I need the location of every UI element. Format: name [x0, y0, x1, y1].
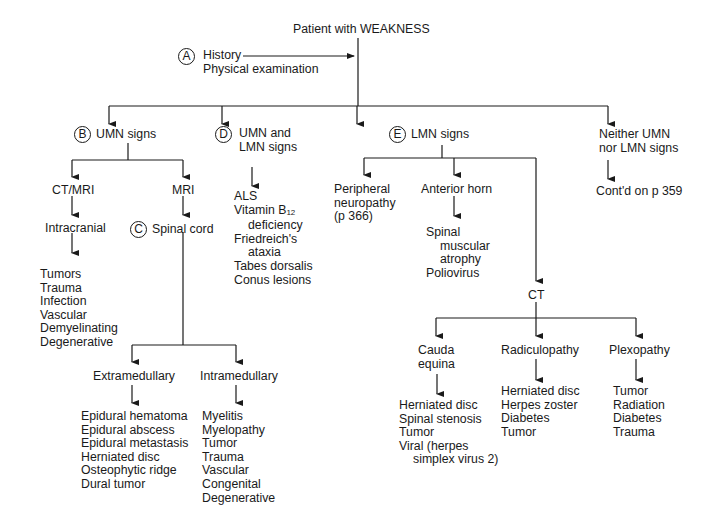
lmn-node: ELMN signs [389, 126, 469, 143]
extramedullary-causes: Epidural hematoma Epidural abscess Epidu… [81, 410, 188, 492]
step-a-physical-exam: Physical examination [203, 63, 319, 77]
list-item: Diabetes [501, 412, 580, 426]
umn-lmn-marker: D [215, 126, 237, 143]
umn-node: BUMN signs [74, 126, 156, 143]
list-item: Friedreich's [234, 233, 313, 247]
list-item: Spinal stenosis [399, 413, 498, 427]
list-item: Congenital [202, 478, 275, 492]
list-item: ALS [234, 190, 313, 204]
list-item: Vascular [202, 464, 275, 478]
marker-e-icon: E [389, 126, 406, 143]
list-item: muscular [426, 240, 490, 254]
list-item: Vascular [40, 309, 118, 323]
intracranial-node: Intracranial [45, 222, 106, 236]
list-item: Degenerative [40, 336, 118, 350]
list-item: Tumor [613, 385, 665, 399]
peripheral-neuropathy-node: Peripheral neuropathy (p 366) [334, 183, 396, 224]
spinal-cord-node: CSpinal cord [130, 221, 214, 238]
list-item: Trauma [40, 282, 118, 296]
step-a-history: History [203, 49, 241, 63]
list-item: Epidural abscess [81, 424, 188, 438]
umn-lmn-causes: ALS Vitamin B12 deficiency Friedreich's … [234, 190, 313, 287]
ct-mri-node: CT/MRI [52, 184, 94, 198]
radiculopathy-node: Radiculopathy [501, 344, 579, 358]
ct-node: CT [528, 289, 544, 303]
extramedullary-node: Extramedullary [93, 370, 175, 384]
list-item: Tumor [202, 437, 275, 451]
list-item: deficiency [234, 219, 313, 233]
lmn-label: LMN signs [411, 127, 469, 141]
intramedullary-node: Intramedullary [200, 370, 278, 384]
list-item: Dural tumor [81, 478, 188, 492]
list-item: Myelitis [202, 410, 275, 424]
list-item: Infection [40, 295, 118, 309]
list-item: Diabetes [613, 412, 665, 426]
list-item: Osteophytic ridge [81, 464, 188, 478]
list-item: simplex virus 2) [399, 453, 498, 467]
list-item: Herniated disc [399, 399, 498, 413]
list-item: Conus lesions [234, 274, 313, 288]
list-item: Trauma [202, 451, 275, 465]
list-item: Poliovirus [426, 267, 490, 281]
list-item: Demyelinating [40, 322, 118, 336]
umn-lmn-label: UMN and LMN signs [239, 127, 297, 154]
list-item: Radiation [613, 399, 665, 413]
list-item: atrophy [426, 253, 490, 267]
list-item: Myelopathy [202, 424, 275, 438]
list-item: ataxia [234, 246, 313, 260]
intramedullary-causes: Myelitis Myelopathy Tumor Trauma Vascula… [202, 410, 275, 505]
marker-d-icon: D [215, 126, 232, 143]
plexopathy-node: Plexopathy [609, 344, 670, 358]
cauda-equina-node: Cauda equina [418, 344, 455, 371]
cauda-equina-causes: Herniated disc Spinal stenosis Tumor Vir… [399, 399, 498, 467]
umn-label: UMN signs [96, 127, 156, 141]
anterior-horn-causes: Spinal muscular atrophy Poliovirus [426, 226, 490, 280]
list-item: Epidural metastasis [81, 437, 188, 451]
list-item: Trauma [613, 426, 665, 440]
list-item: Herpes zoster [501, 399, 580, 413]
mri-node: MRI [172, 184, 195, 198]
list-item: Tumors [40, 268, 118, 282]
marker-b-icon: B [74, 126, 91, 143]
list-item: Spinal [426, 226, 490, 240]
list-item: Herniated disc [501, 385, 580, 399]
list-item: Epidural hematoma [81, 410, 188, 424]
list-item: Viral (herpes [399, 440, 498, 454]
list-item: Tabes dorsalis [234, 260, 313, 274]
list-item: Tumor [399, 426, 498, 440]
plexopathy-causes: Tumor Radiation Diabetes Trauma [613, 385, 665, 439]
spinal-cord-label: Spinal cord [152, 222, 214, 236]
continued-reference: Cont'd on p 359 [596, 185, 682, 199]
radiculopathy-causes: Herniated disc Herpes zoster Diabetes Tu… [501, 385, 580, 439]
marker-a-icon: A [178, 48, 195, 65]
list-item: Herniated disc [81, 451, 188, 465]
intracranial-causes: Tumors Trauma Infection Vascular Demyeli… [40, 268, 118, 350]
step-a-marker: A [178, 48, 200, 65]
anterior-horn-node: Anterior horn [421, 183, 492, 197]
marker-c-icon: C [130, 221, 147, 238]
diagram-title: Patient with WEAKNESS [293, 23, 430, 37]
list-item: Degenerative [202, 492, 275, 506]
list-item: Tumor [501, 426, 580, 440]
neither-node: Neither UMN nor LMN signs [599, 128, 678, 155]
list-item: Vitamin B12 [234, 204, 313, 220]
